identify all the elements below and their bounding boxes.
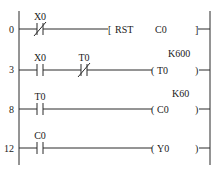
coil-open-paren: ( [151,104,155,116]
no-contact-icon [37,64,43,76]
coil-constant: K600 [168,48,190,59]
instruction-op: RST [115,24,133,35]
coil-operand: Y0 [157,143,169,154]
contact-label: X0 [34,11,46,22]
no-contact-icon [37,103,43,115]
coil-close-paren: ) [195,143,198,155]
contact-label: X0 [34,52,46,63]
instruction-open-bracket: [ [108,24,111,35]
coil-constant: K60 [172,88,189,99]
coil-close-paren: ) [195,104,198,116]
ladder-diagram: 0 X0 [ RST C0 ] 3 X0 T0 ( T0 K [0,0,219,173]
no-contact-icon [37,142,43,154]
rung-12: 12 C0 ( Y0 ) [4,130,210,155]
coil-open-paren: ( [151,143,155,155]
rung-0: 0 X0 [ RST C0 ] [9,11,210,36]
step-number: 12 [4,143,14,154]
coil-operand: C0 [157,104,169,115]
instruction-operand: C0 [155,24,167,35]
rung-8: 8 T0 ( C0 K60 ) [9,88,210,116]
rung-3: 3 X0 T0 ( T0 K600 ) [9,48,210,77]
step-number: 0 [9,24,14,35]
contact-label: C0 [34,130,46,141]
contact-label: T0 [34,91,45,102]
step-number: 3 [9,64,14,75]
coil-close-paren: ) [195,65,198,77]
coil-open-paren: ( [151,65,155,77]
step-number: 8 [9,104,14,115]
instruction-close-bracket: ] [195,24,198,35]
contact-label: T0 [78,52,89,63]
coil-operand: T0 [157,65,168,76]
